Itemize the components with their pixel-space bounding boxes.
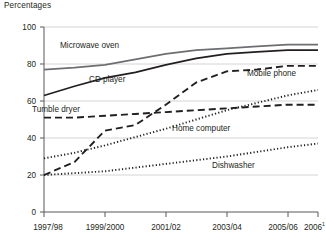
axes — [40, 27, 318, 217]
xtick-label-2005-06: 2005/06 — [268, 223, 298, 232]
xtick-label-2006: 2006 — [304, 223, 323, 232]
xtick-label-1999-2000: 1999/2000 — [86, 223, 125, 232]
xtick-footnote-marker: 1 — [322, 221, 325, 227]
series-inline-labels: Microwave oven CD player Mobile phone Tu… — [32, 41, 297, 170]
ytick-label-80: 80 — [27, 60, 37, 69]
x-tick-labels: 1997/98 1999/2000 2001/02 2003/04 2005/0… — [33, 221, 325, 232]
ytick-label-20: 20 — [27, 171, 37, 180]
ytick-label-40: 40 — [27, 134, 37, 143]
line-chart-plot: 100 80 60 40 20 0 1997/98 1999/2000 2001… — [0, 0, 326, 240]
xtick-label-1997-98: 1997/98 — [33, 223, 63, 232]
series-line-dishwasher — [44, 144, 318, 175]
series-line-tumble-dryer — [44, 105, 318, 118]
series-label-tumble-dryer: Tumble dryer — [32, 105, 80, 114]
series-label-home-computer: Home computer — [172, 124, 231, 133]
series-line-mobile-phone — [44, 66, 318, 175]
chart-container: Percentages 100 80 — [0, 0, 326, 240]
series-label-dishwasher: Dishwasher — [212, 161, 255, 170]
xtick-label-2001-02: 2001/02 — [151, 223, 181, 232]
series-label-mobile-phone: Mobile phone — [247, 69, 297, 78]
series-label-microwave-oven: Microwave oven — [60, 41, 120, 50]
y-tick-labels: 100 80 60 40 20 0 — [22, 23, 36, 217]
series-label-cd-player: CD player — [89, 75, 126, 84]
ytick-label-100: 100 — [22, 23, 36, 32]
xtick-label-2003-04: 2003/04 — [212, 223, 242, 232]
ytick-label-0: 0 — [31, 208, 36, 217]
